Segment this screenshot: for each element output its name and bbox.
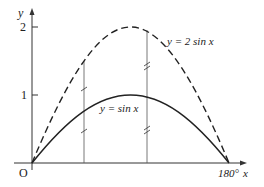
y-tick-label-2: 2 xyxy=(20,20,26,34)
sine-diagram: y 2 1 O 180° x y = 2 sin x y = sin x xyxy=(0,0,264,187)
y-axis-label: y xyxy=(17,6,24,20)
x-end-label: 180° xyxy=(218,167,240,179)
x-axis-label: x xyxy=(242,167,248,179)
x-axis-arrow-icon xyxy=(240,161,247,166)
label-2sinx: y = 2 sin x xyxy=(166,35,214,47)
origin-label: O xyxy=(19,166,28,180)
label-sinx: y = sin x xyxy=(99,102,138,114)
y-tick-label-1: 1 xyxy=(21,88,27,102)
y-axis-arrow-icon xyxy=(30,8,35,15)
